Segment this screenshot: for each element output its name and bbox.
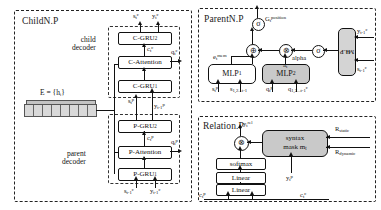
label-s-hist-sub: 1,2...t-1 [233,88,248,93]
box-p-gru2-label: P-GRU [133,123,154,130]
label-q-t-c: qtc [171,49,178,57]
box-c-gru2-label: C-GRU [133,35,155,42]
label-a-t-sub: t [286,64,287,69]
line-cgru2-out-y [158,24,159,32]
encoder-cell [70,105,79,116]
syntax-mask-line2-base: mask m [283,143,305,151]
box-mlp2-label: MLP [276,70,292,78]
label-y-rel: ytrel [243,121,252,129]
box-p-gru1: P-GRU1 [118,168,172,181]
label-y-tm1-c: yt-1c [150,188,161,196]
line-cgru1-to-cattn [144,71,145,80]
label-y-t-c: ytc [152,13,159,21]
label-parent-qtp-sup: p [271,85,273,90]
label-r-dynamic: Rdynamic [335,149,355,157]
label-r-static-sub: static [339,128,349,133]
label-q-hist-sub: 1,2...t-1 [291,88,306,93]
arrow-input-y-to-pgru1 [153,176,157,180]
arrow-pgru1-to-pattn [142,156,146,160]
label-s-t-p: stp [128,98,134,106]
line-input-ytm1c-mlp3 [356,37,374,38]
encoder-cell [61,105,70,116]
line-mlp1-out-up [231,56,232,64]
label-parent-s-t-p: stp [212,86,218,94]
times-operator-relation: ⊗ [234,136,249,151]
line-qtp-out [170,151,178,152]
syntax-mask-sub: t [305,147,306,152]
arrow-sigma-to-times [291,48,295,52]
label-c-t-c-relation: ctc [300,192,306,200]
syntax-mask-line2: mask mt [283,144,306,151]
box-linear-lower-label: Linear [232,187,250,194]
line-qtc-out [170,61,178,62]
box-mlp2-sub: 2 [293,71,296,77]
line-input-stm1c-mlp3 [356,60,374,61]
label-parent-s-tm1-c: st-1c [357,66,367,74]
arrow-mlp2-to-times [283,53,287,57]
child-decoder-label: child decoder [72,36,96,51]
arrow-cgru2-out-s [138,21,142,25]
parent-decoder-label: parent decoder [62,150,86,165]
arrow-mask-to-times [247,140,251,144]
label-q-t-p: qtp [171,139,178,147]
arrow-cgru2-out-y [156,21,160,25]
arrow-cattn-to-cgru2 [142,43,146,47]
label-c-t-p: ctp [147,135,154,143]
syntax-mask-line1: syntax [286,135,304,142]
box-p-attention-label: P-Attention [129,149,162,156]
box-mlp1-label: MLP [222,70,238,78]
label-parent-q-t-p: qtp [266,86,273,94]
line-rdynamic-to-mask [326,147,370,148]
box-c-gru1-sub: 1 [155,84,158,89]
label-q-t-p-sup: p [176,138,178,143]
line-stp-to-cgru1 [136,97,137,120]
line-mlp1-to-plus [252,56,253,64]
label-s-hist: s1,2...t-1 [230,86,247,94]
arrow-mlp3-to-sigma [323,48,327,52]
encoder-cell [79,105,88,116]
label-ctp-rel-sup: p [203,191,205,196]
label-parent-y-tm1-c: yt-1c [357,28,368,36]
label-q-hist-sup: c [306,85,308,90]
arrow-plus-to-sigma-top [250,27,254,31]
label-y-t-c-sup: c [157,12,159,17]
child-decoder-label-line2: decoder [72,43,96,52]
box-linear-upper: Linear [216,172,266,184]
figure-canvas: ChildN.P child decoder parent decoder E … [0,0,381,210]
box-linear-lower: Linear [216,184,266,196]
label-ctc-rel-sup: c [304,191,306,196]
arrow-input-qtp-mlp2 [270,79,274,83]
line-times-out [240,127,241,136]
arrow-input-stm1c-mlp3 [354,58,358,62]
line-plus-to-sigma-top [252,29,253,44]
encoder-cell [52,105,61,116]
line-ytp-to-mask [291,155,292,173]
arrow-times-out [238,124,242,128]
arrow-qtp-out [178,149,182,153]
label-parent-ytm1c-sup: c [365,27,367,32]
arrow-rstatic-to-mask [326,135,330,139]
line-ctp-bus [204,199,329,200]
encoder-out-line [96,110,114,111]
arrow-ctp-to-linear [226,191,230,195]
label-q-t-c-sup: c [176,48,178,53]
label-q-hist: q1,2...t-1c [288,86,308,94]
box-syntax-mask: syntax mask mt [262,130,328,157]
arrow-softmax-to-times [238,146,242,150]
box-linear-upper-label: Linear [232,175,250,182]
label-s-t-c: stc [133,13,139,21]
line-softmax-to-times [240,149,241,158]
label-parent-stm1c-sup: c [365,65,367,70]
sigma-right-glyph: σ [316,47,320,55]
parent-decoder-label-line2: decoder [62,157,86,166]
line-pgru2-to-cgru1 [152,91,153,120]
label-y-tm1-p-sup: p [162,102,164,107]
label-c-t-c: ctc [147,46,153,54]
label-s-tm1-c-sup: c [132,187,134,192]
label-c-t-c-sup: c [151,45,153,50]
arrow-input-qhist-mlp2 [294,79,298,83]
line-input-s-to-pgru1 [136,179,137,188]
encoder-cell [43,105,52,116]
box-mlp1-sub: 1 [239,71,242,77]
box-c-gru1: C-GRU1 [118,80,172,93]
